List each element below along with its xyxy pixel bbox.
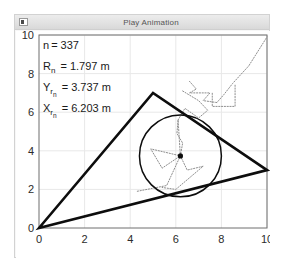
y-tick-label: 4: [28, 145, 34, 157]
animation-window: Play Animation 02468100246810n= 337Rn = …: [14, 14, 270, 258]
series-trail-upper-right: [189, 37, 267, 103]
y-tick-label: 8: [28, 68, 34, 80]
annotation-line: Xrn = 6.203 m: [43, 102, 111, 119]
annotation-line: n= 337: [43, 39, 79, 51]
window-titlebar[interactable]: Play Animation: [15, 15, 269, 30]
annotation-text: Xrn = 6.203 m: [43, 102, 111, 119]
annotation-text: Rn = 1.797 m: [43, 60, 110, 75]
annotation-line: Yrn = 3.737 m: [43, 81, 111, 98]
x-tick-label: 2: [82, 233, 88, 245]
y-tick-label: 10: [22, 31, 34, 41]
annotation-text: n= 337: [43, 39, 79, 51]
screenshot-root: Play Animation 02468100246810n= 337Rn = …: [0, 0, 282, 272]
series-center-marker: [178, 153, 183, 158]
y-tick-label: 0: [28, 222, 34, 234]
x-tick-label: 4: [127, 233, 133, 245]
window-title: Play Animation: [15, 15, 269, 30]
y-tick-label: 6: [28, 106, 34, 118]
x-tick-label: 10: [261, 233, 270, 245]
annotation-line: Rn = 1.797 m: [43, 60, 110, 75]
x-tick-label: 6: [173, 233, 179, 245]
series-trail-box-right: [212, 85, 235, 106]
annotation-text: Yrn = 3.737 m: [43, 81, 111, 98]
figure-canvas: 02468100246810n= 337Rn = 1.797 mYrn = 3.…: [16, 31, 270, 258]
series-trail-lower: [162, 156, 203, 190]
x-tick-label: 8: [218, 233, 224, 245]
animation-plot[interactable]: 02468100246810n= 337Rn = 1.797 mYrn = 3.…: [16, 31, 270, 258]
x-tick-label: 0: [36, 233, 42, 245]
y-tick-label: 2: [28, 183, 34, 195]
